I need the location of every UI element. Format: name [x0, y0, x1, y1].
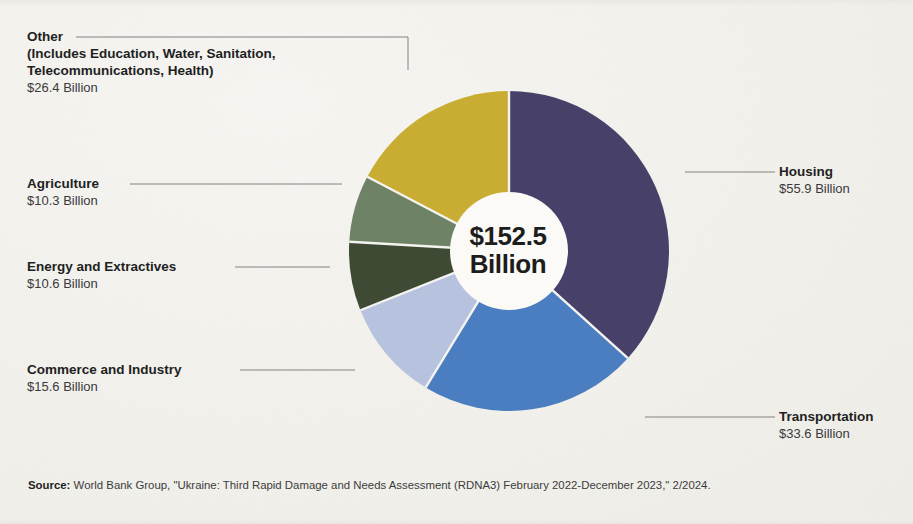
callout-other: Other (Includes Education, Water, Sanita… — [27, 28, 357, 97]
callout-other-subtitle: (Includes Education, Water, Sanitation, … — [27, 45, 357, 79]
page-edge-bottom — [0, 518, 913, 524]
callout-energy: Energy and Extractives $10.6 Billion — [27, 258, 307, 293]
callout-housing-title: Housing — [779, 163, 909, 180]
callout-transportation: Transportation $33.6 Billion — [779, 408, 913, 443]
callout-agriculture: Agriculture $10.3 Billion — [27, 175, 277, 210]
callout-other-title: Other — [27, 28, 357, 45]
callout-other-value: $26.4 Billion — [27, 80, 357, 97]
callout-energy-title: Energy and Extractives — [27, 258, 307, 275]
callout-commerce-value: $15.6 Billion — [27, 379, 317, 396]
pie-chart: $152.5 Billion Other (Includes Education… — [0, 0, 913, 468]
source-label: Source: — [28, 479, 70, 491]
callout-transportation-value: $33.6 Billion — [779, 426, 913, 443]
source-note: Source: World Bank Group, "Ukraine: Thir… — [28, 477, 890, 494]
callout-commerce: Commerce and Industry $15.6 Billion — [27, 361, 317, 396]
callout-agriculture-title: Agriculture — [27, 175, 277, 192]
callout-agriculture-value: $10.3 Billion — [27, 193, 277, 210]
chart-page: $152.5 Billion Other (Includes Education… — [0, 0, 913, 524]
donut-chart-svg — [348, 90, 670, 412]
callout-transportation-title: Transportation — [779, 408, 913, 425]
callout-energy-value: $10.6 Billion — [27, 276, 307, 293]
callout-commerce-title: Commerce and Industry — [27, 361, 317, 378]
donut-hole — [450, 192, 568, 310]
source-text: World Bank Group, "Ukraine: Third Rapid … — [70, 479, 710, 491]
callout-housing: Housing $55.9 Billion — [779, 163, 909, 198]
callout-housing-value: $55.9 Billion — [779, 181, 909, 198]
